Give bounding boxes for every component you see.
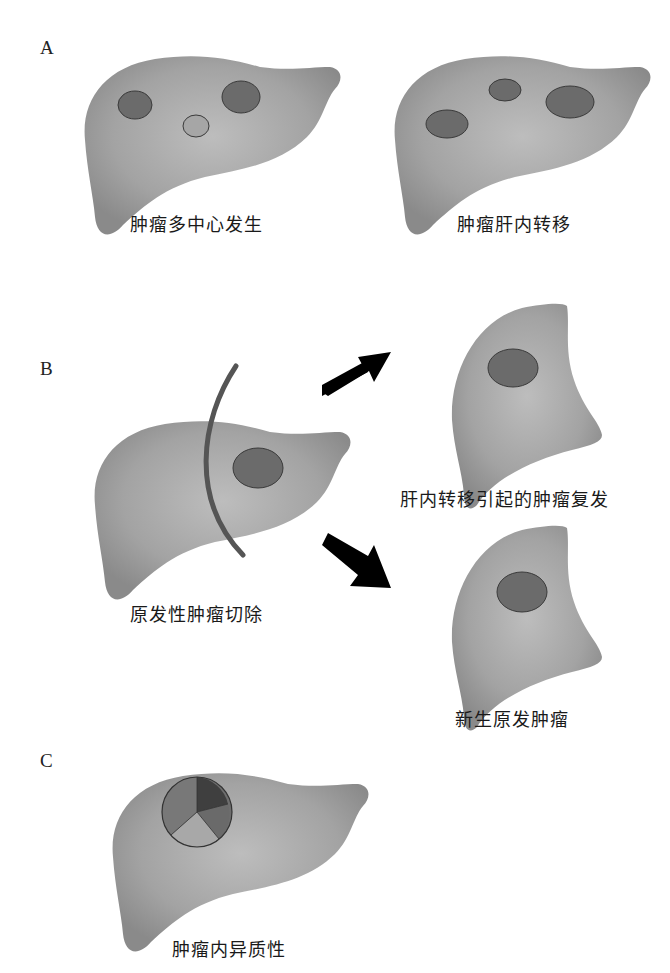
- liver-multicentric: [85, 56, 341, 234]
- caption-primary-resection: 原发性肿瘤切除: [130, 600, 263, 626]
- caption-new-primary: 新生原发肿瘤: [455, 705, 569, 731]
- remnant-liver-new-primary: [452, 526, 602, 731]
- liver-intrahepatic-metastasis: [395, 56, 651, 234]
- panel-label-c: C: [40, 750, 53, 772]
- arrow-down-right-icon: [322, 533, 391, 588]
- tumor-dark-icon: [546, 86, 594, 118]
- tumor-dark-icon: [489, 79, 521, 101]
- tumor-dark-icon: [426, 110, 468, 138]
- heterogeneous-tumor-icon: [162, 777, 232, 847]
- panel-label-b: B: [40, 358, 53, 380]
- tumor-dark-icon: [497, 572, 547, 612]
- caption-multicentric: 肿瘤多中心发生: [130, 210, 263, 236]
- arrow-up-right-icon: [322, 352, 391, 396]
- caption-recurrence: 肝内转移引起的肿瘤复发: [400, 485, 609, 511]
- caption-heterogeneity: 肿瘤内异质性: [172, 935, 286, 961]
- tumor-light-icon: [183, 115, 209, 137]
- remnant-liver-recurrence: [452, 304, 602, 509]
- tumor-dark-icon: [222, 81, 260, 113]
- liver-primary-resection: [95, 421, 351, 599]
- panel-label-a: A: [40, 37, 54, 59]
- tumor-dark-icon: [233, 448, 283, 488]
- tumor-dark-icon: [118, 91, 152, 119]
- caption-intrahepatic-metastasis: 肿瘤肝内转移: [457, 210, 571, 236]
- tumor-dark-icon: [488, 349, 538, 387]
- liver-intratumor-heterogeneity: [113, 773, 369, 951]
